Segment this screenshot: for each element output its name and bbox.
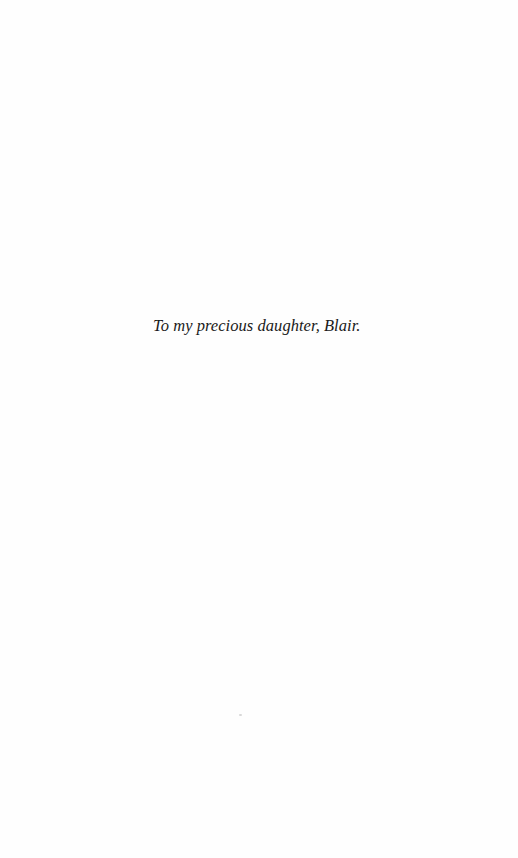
dedication-text: To my precious daughter, Blair. [153, 316, 361, 336]
scan-artifact [239, 714, 242, 716]
book-page: To my precious daughter, Blair. [0, 0, 518, 858]
